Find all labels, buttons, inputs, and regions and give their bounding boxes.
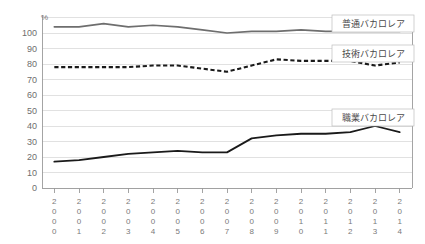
x-tick-label: 2001 xyxy=(77,197,82,236)
svg-text:0: 0 xyxy=(225,207,230,216)
svg-text:0: 0 xyxy=(126,207,131,216)
legend-label: 職業バカロレア xyxy=(342,112,405,123)
svg-text:0: 0 xyxy=(175,207,180,216)
svg-text:0: 0 xyxy=(373,207,378,216)
x-tick-label: 2000 xyxy=(52,197,57,236)
series-lines xyxy=(54,24,399,162)
x-tick-label: 2009 xyxy=(274,197,279,236)
svg-text:0: 0 xyxy=(101,207,106,216)
svg-text:2: 2 xyxy=(274,197,279,206)
svg-text:0: 0 xyxy=(397,207,402,216)
svg-text:0: 0 xyxy=(52,227,57,236)
x-tick-label: 2008 xyxy=(249,197,254,236)
svg-text:0: 0 xyxy=(200,207,205,216)
svg-text:1: 1 xyxy=(323,227,328,236)
svg-text:2: 2 xyxy=(175,197,180,206)
svg-text:0: 0 xyxy=(175,217,180,226)
svg-text:2: 2 xyxy=(397,197,402,206)
svg-text:9: 9 xyxy=(274,227,279,236)
svg-text:0: 0 xyxy=(77,207,82,216)
x-tick-label: 2002 xyxy=(101,197,106,236)
y-tick-label: 0 xyxy=(32,183,37,193)
x-tick-label: 2013 xyxy=(373,197,378,236)
svg-text:0: 0 xyxy=(77,217,82,226)
svg-text:1: 1 xyxy=(373,217,378,226)
svg-text:1: 1 xyxy=(397,217,402,226)
svg-text:2: 2 xyxy=(249,197,254,206)
chart-canvas: 0102030405060708090100 20002001200220032… xyxy=(0,0,425,244)
x-tick-label: 2010 xyxy=(299,197,304,236)
line-chart: 0102030405060708090100 20002001200220032… xyxy=(0,0,425,244)
svg-text:0: 0 xyxy=(151,217,156,226)
svg-text:0: 0 xyxy=(249,207,254,216)
svg-text:1: 1 xyxy=(348,217,353,226)
x-tick-label: 2011 xyxy=(323,197,328,236)
svg-text:2: 2 xyxy=(323,197,328,206)
svg-text:4: 4 xyxy=(151,227,156,236)
legend-item[interactable]: 職業バカロレア xyxy=(332,109,414,126)
svg-text:2: 2 xyxy=(200,197,205,206)
svg-text:2: 2 xyxy=(101,227,106,236)
svg-text:0: 0 xyxy=(151,207,156,216)
series-line xyxy=(54,126,399,162)
svg-text:2: 2 xyxy=(77,197,82,206)
y-tick-label: 80 xyxy=(27,59,37,69)
x-tick-label: 2007 xyxy=(225,197,230,236)
gridlines xyxy=(42,17,412,188)
svg-text:2: 2 xyxy=(348,227,353,236)
svg-text:7: 7 xyxy=(225,227,230,236)
svg-text:0: 0 xyxy=(299,227,304,236)
svg-text:0: 0 xyxy=(52,207,57,216)
svg-text:0: 0 xyxy=(101,217,106,226)
x-tick-label: 2014 xyxy=(397,197,402,236)
x-axis xyxy=(54,188,399,193)
y-tick-label: 50 xyxy=(27,106,37,116)
svg-text:1: 1 xyxy=(77,227,82,236)
svg-text:2: 2 xyxy=(299,197,304,206)
legend-label: 技術バカロレア xyxy=(342,48,405,59)
y-axis-unit-label: % xyxy=(41,13,48,22)
svg-text:2: 2 xyxy=(101,197,106,206)
svg-text:4: 4 xyxy=(397,227,402,236)
svg-text:0: 0 xyxy=(299,207,304,216)
y-tick-label: 90 xyxy=(27,44,37,54)
y-tick-label: 40 xyxy=(27,121,37,131)
svg-text:0: 0 xyxy=(323,207,328,216)
svg-text:2: 2 xyxy=(52,197,57,206)
svg-text:3: 3 xyxy=(126,227,131,236)
svg-text:6: 6 xyxy=(200,227,205,236)
svg-text:0: 0 xyxy=(126,217,131,226)
svg-text:0: 0 xyxy=(225,217,230,226)
y-tick-label: 100 xyxy=(22,28,37,38)
svg-text:0: 0 xyxy=(274,207,279,216)
y-tick-label: 70 xyxy=(27,75,37,85)
y-tick-label: 30 xyxy=(27,137,37,147)
svg-text:3: 3 xyxy=(373,227,378,236)
x-tick-label: 2012 xyxy=(348,197,353,236)
svg-text:5: 5 xyxy=(175,227,180,236)
chart-legend: 普通バカロレア技術バカロレア職業バカロレア xyxy=(332,15,414,126)
svg-text:0: 0 xyxy=(274,217,279,226)
svg-text:0: 0 xyxy=(249,217,254,226)
legend-item[interactable]: 技術バカロレア xyxy=(332,45,414,62)
x-tick-label: 2004 xyxy=(151,197,156,236)
svg-text:1: 1 xyxy=(299,217,304,226)
svg-text:0: 0 xyxy=(348,207,353,216)
legend-item[interactable]: 普通バカロレア xyxy=(332,15,414,32)
x-tick-label: 2003 xyxy=(126,197,131,236)
y-tick-label: 60 xyxy=(27,90,37,100)
x-tick-labels: 2000200120022003200420052006200720082009… xyxy=(52,197,402,236)
y-tick-label: 20 xyxy=(27,152,37,162)
svg-text:0: 0 xyxy=(200,217,205,226)
y-tick-labels: 0102030405060708090100 xyxy=(22,28,37,193)
svg-text:2: 2 xyxy=(151,197,156,206)
svg-text:2: 2 xyxy=(126,197,131,206)
x-tick-label: 2006 xyxy=(200,197,205,236)
svg-text:2: 2 xyxy=(348,197,353,206)
svg-text:2: 2 xyxy=(373,197,378,206)
svg-text:1: 1 xyxy=(323,217,328,226)
svg-text:2: 2 xyxy=(225,197,230,206)
x-tick-label: 2005 xyxy=(175,197,180,236)
y-axis xyxy=(42,15,412,188)
y-tick-label: 10 xyxy=(27,168,37,178)
